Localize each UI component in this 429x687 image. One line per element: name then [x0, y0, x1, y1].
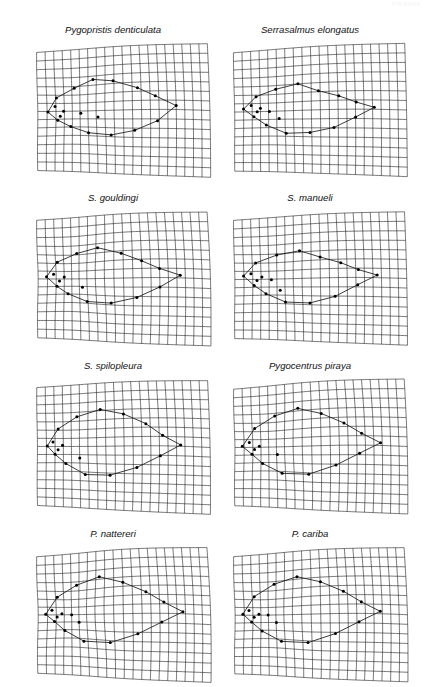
landmark-point [259, 107, 262, 110]
landmark-point [75, 415, 78, 418]
landmark-point [58, 280, 61, 283]
species-label: S. spilopleura [27, 360, 199, 372]
landmark-point [252, 115, 255, 118]
landmark-point [242, 108, 245, 111]
landmark-point [78, 621, 81, 624]
deformation-grid [27, 374, 219, 520]
body-outline [244, 84, 375, 133]
species-label: P. cariba [224, 528, 396, 540]
landmark-point [298, 249, 301, 252]
deformation-grid [27, 38, 219, 184]
body-outline [47, 409, 180, 475]
landmark-point [91, 78, 94, 81]
landmark-point [379, 610, 382, 613]
landmark-point [358, 452, 361, 455]
landmark-point [96, 246, 99, 249]
landmark-point [73, 87, 76, 90]
landmark-point [334, 632, 337, 635]
landmark-point [122, 412, 125, 415]
landmark-point [319, 256, 322, 259]
body-outline [48, 79, 176, 135]
landmark-point [175, 104, 178, 107]
landmark-point [59, 115, 62, 118]
species-label: S. gouldingi [27, 192, 199, 204]
species-label: Pygopristis denticulata [27, 24, 199, 36]
landmark-point [317, 89, 320, 92]
landmark-point [162, 601, 165, 604]
landmark-point [159, 454, 162, 457]
landmark-point [56, 261, 59, 264]
species-label: P. nattereri [27, 528, 199, 540]
landmark-point [161, 434, 164, 437]
landmark-point [249, 272, 252, 275]
landmark-point [308, 301, 311, 304]
landmark-point [339, 261, 342, 264]
landmark-point [265, 124, 268, 127]
landmark-point [75, 252, 78, 255]
landmark-point [267, 613, 270, 616]
landmark-point [360, 432, 363, 435]
landmark-point [57, 427, 60, 430]
landmark-point [97, 115, 100, 118]
landmark-point [64, 462, 67, 465]
landmark-point [284, 301, 287, 304]
grid-lines [234, 212, 408, 345]
landmark-point [99, 408, 102, 411]
landmark-point [54, 453, 57, 456]
landmark-point [360, 600, 363, 603]
landmark-point [256, 279, 259, 282]
landmark-point [120, 252, 123, 255]
landmark-point [270, 278, 273, 281]
landmark-point [78, 456, 81, 459]
landmark-point [86, 300, 89, 303]
landmark-point [82, 640, 85, 643]
landmark-point [253, 284, 256, 287]
landmark-point [60, 612, 63, 615]
landmark-point [275, 621, 278, 624]
landmark-point [258, 445, 261, 448]
landmark-point [255, 95, 258, 98]
landmark-point [133, 129, 136, 132]
landmark-point [63, 275, 66, 278]
landmark-point [181, 610, 184, 613]
landmark-point [45, 275, 48, 278]
landmark-point [84, 473, 87, 476]
landmark-point [179, 443, 182, 446]
landmark-point [53, 620, 56, 623]
landmark-point [52, 440, 55, 443]
landmark-point [250, 104, 253, 107]
landmark-point [264, 292, 267, 295]
landmark-point [109, 641, 112, 644]
landmark-point [273, 583, 276, 586]
landmark-point [56, 615, 59, 618]
landmark-point [250, 621, 253, 624]
landmark-point [55, 96, 58, 99]
landmark-point [69, 125, 72, 128]
landmark-point [251, 453, 254, 456]
landmark-point [376, 274, 379, 277]
deformation-grid [27, 542, 219, 687]
landmark-point [75, 584, 78, 587]
landmark-point [253, 427, 256, 430]
landmark-point [296, 407, 299, 410]
landmark-point [253, 595, 256, 598]
landmark-point [160, 621, 163, 624]
landmark-point [46, 444, 49, 447]
species-label: S. manueli [224, 192, 396, 204]
landmark-point [62, 110, 65, 113]
landmark-point [296, 82, 299, 85]
landmark-point [308, 131, 311, 134]
landmark-point [136, 632, 139, 635]
landmark-point [253, 616, 256, 619]
landmark-point [54, 105, 57, 108]
landmark-point [260, 276, 263, 279]
landmark-point [98, 575, 101, 578]
landmark-point [158, 267, 161, 270]
landmark-point [70, 613, 73, 616]
landmark-point [354, 116, 357, 119]
grid-lines [37, 212, 211, 346]
landmark-point [373, 106, 376, 109]
landmark-point [295, 575, 298, 578]
landmark-point [81, 286, 84, 289]
